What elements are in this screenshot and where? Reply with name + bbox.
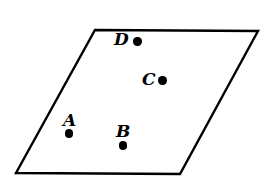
geometry-figure: A B C D <box>0 0 273 188</box>
point-label-d: D <box>114 31 129 48</box>
point-label-a: A <box>63 112 76 129</box>
point-dot-d <box>133 37 141 45</box>
parallelogram-svg <box>0 0 273 188</box>
point-dot-b <box>119 141 127 149</box>
point-label-b: B <box>116 123 130 140</box>
point-label-c: C <box>142 71 156 88</box>
parallelogram-outline <box>16 30 258 174</box>
point-dot-a <box>65 129 73 137</box>
point-dot-c <box>158 76 166 84</box>
